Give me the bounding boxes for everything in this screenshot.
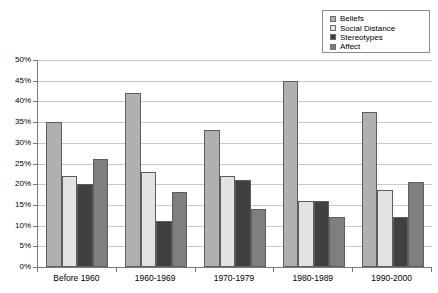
chart-legend: Beliefs Social Distance Stereotypes Affe… <box>322 10 430 53</box>
bar <box>377 190 393 267</box>
legend-item-social-distance: Social Distance <box>330 23 429 32</box>
plot-area <box>37 60 432 268</box>
bar <box>77 184 93 267</box>
bar <box>314 201 330 267</box>
x-axis-category-label: 1970-1979 <box>195 273 274 283</box>
legend-label-stereotypes: Stereotypes <box>340 33 383 42</box>
y-axis-tick-label: 30% <box>0 138 31 147</box>
bar <box>393 217 409 267</box>
legend-swatch-stereotypes <box>330 34 336 40</box>
y-axis-tick-label: 10% <box>0 221 31 230</box>
bar <box>283 81 299 267</box>
bar <box>172 192 188 267</box>
y-axis-tick-label: 0% <box>0 262 31 271</box>
bar <box>235 180 251 267</box>
x-axis-tick-mark <box>116 268 117 272</box>
bar <box>298 201 314 267</box>
x-axis-category-label: 1980-1989 <box>273 273 352 283</box>
gridline <box>38 60 432 61</box>
x-axis-tick-mark <box>37 268 38 272</box>
y-axis-tick-label: 50% <box>0 55 31 64</box>
bar <box>93 159 109 267</box>
x-axis-category-label: 1960-1969 <box>116 273 195 283</box>
x-axis-tick-mark <box>273 268 274 272</box>
bar-chart: Beliefs Social Distance Stereotypes Affe… <box>0 0 438 293</box>
bar <box>408 182 424 267</box>
y-axis-tick-label: 40% <box>0 96 31 105</box>
bar <box>62 176 78 267</box>
bar <box>251 209 267 267</box>
x-axis-tick-mark <box>431 268 432 272</box>
x-axis-tick-mark <box>195 268 196 272</box>
y-axis-tick-label: 25% <box>0 159 31 168</box>
bar <box>220 176 236 267</box>
x-axis-tick-mark <box>352 268 353 272</box>
legend-item-stereotypes: Stereotypes <box>330 33 429 42</box>
legend-label-social-distance: Social Distance <box>340 24 395 33</box>
bar <box>46 122 62 267</box>
y-axis-tick-label: 20% <box>0 179 31 188</box>
legend-swatch-affect <box>330 44 336 50</box>
y-axis-tick-label: 5% <box>0 241 31 250</box>
legend-swatch-social-distance <box>330 25 336 31</box>
bar <box>362 112 378 267</box>
y-axis-tick-label: 35% <box>0 117 31 126</box>
bar <box>125 93 141 267</box>
legend-swatch-beliefs <box>330 16 336 22</box>
legend-item-beliefs: Beliefs <box>330 14 429 23</box>
bar <box>204 130 220 267</box>
y-axis-tick-label: 45% <box>0 76 31 85</box>
x-axis-category-label: Before 1960 <box>37 273 116 283</box>
y-axis-tick-label: 15% <box>0 200 31 209</box>
bar <box>329 217 345 267</box>
legend-label-beliefs: Beliefs <box>340 14 364 23</box>
gridline <box>38 101 432 102</box>
x-axis-category-label: 1990-2000 <box>352 273 431 283</box>
bar <box>156 221 172 267</box>
bar <box>141 172 157 267</box>
legend-label-affect: Affect <box>340 42 360 51</box>
legend-item-affect: Affect <box>330 42 429 51</box>
gridline <box>38 81 432 82</box>
